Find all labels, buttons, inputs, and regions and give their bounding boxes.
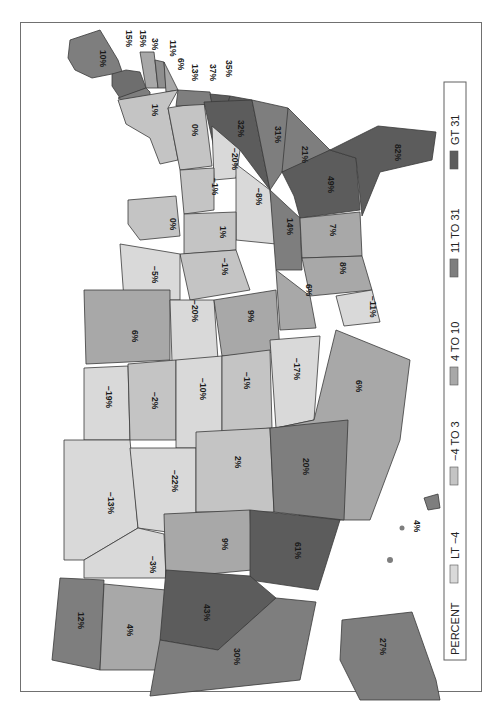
- label-WY: −22%: [170, 470, 180, 492]
- legend-label-5: GT 31: [449, 115, 461, 145]
- legend-label-4: 11 TO 31: [449, 208, 461, 253]
- label-AL: 7%: [328, 224, 338, 237]
- label-FL: 82%: [393, 144, 403, 161]
- label-TN: 14%: [285, 218, 295, 235]
- legend-swatch-4: [450, 259, 458, 277]
- label-TX: 6%: [354, 380, 364, 393]
- label-PA: 0%: [190, 124, 200, 137]
- label-OR: 4%: [125, 624, 135, 637]
- legend-title: PERCENT: [449, 602, 461, 655]
- state-IL[interactable]: [180, 250, 250, 300]
- label-AR: 6%: [304, 284, 314, 297]
- state-KS[interactable]: [222, 350, 272, 432]
- state-UT[interactable]: [164, 510, 252, 578]
- label-SD: −2%: [150, 392, 160, 410]
- state-OK[interactable]: [270, 336, 320, 428]
- legend-label-2: −4 TO 3: [449, 421, 461, 461]
- label-VA: 32%: [236, 120, 246, 137]
- label-WI: −5%: [150, 266, 160, 284]
- label-RI: 11%: [168, 40, 178, 57]
- state-MN[interactable]: [84, 290, 170, 364]
- legend-swatch-2: [450, 467, 458, 485]
- label-ID: −3%: [148, 556, 158, 574]
- label-NC: 31%: [273, 126, 283, 143]
- label-IL: −1%: [220, 258, 230, 276]
- label-NH: 15%: [124, 30, 134, 47]
- label-MD: 35%: [224, 60, 234, 77]
- state-HI[interactable]: [424, 494, 440, 510]
- label-NE: −10%: [198, 378, 208, 400]
- label-GA: 49%: [326, 176, 336, 193]
- label-ME: 10%: [98, 50, 108, 67]
- label-NJ: 13%: [190, 64, 200, 81]
- label-KS: −1%: [242, 372, 252, 390]
- label-NV: 43%: [202, 604, 212, 621]
- state-OH[interactable]: [180, 168, 214, 214]
- state-AK[interactable]: [340, 612, 440, 700]
- label-LA: −11%: [368, 296, 378, 318]
- label-MS: 8%: [338, 262, 348, 275]
- legend-swatch-3: [450, 367, 458, 385]
- state-CO[interactable]: [196, 428, 274, 512]
- label-OK: −17%: [292, 358, 302, 380]
- label-KY: −8%: [254, 188, 264, 206]
- us-choropleth-map: 10% 15% 15% 3% 11% 6% 13% 37% 35% 1% 0% …: [0, 0, 502, 716]
- label-CT: 6%: [176, 58, 186, 71]
- label-UT: 9%: [220, 538, 230, 551]
- legend-label-3: 4 TO 10: [449, 322, 461, 361]
- legend-swatch-1: [450, 565, 458, 583]
- label-AZ: 61%: [293, 542, 303, 559]
- legend-label-1: LT −4: [449, 532, 461, 559]
- label-WA: 12%: [76, 612, 86, 629]
- label-ND: −19%: [104, 386, 114, 408]
- state-NY[interactable]: [118, 90, 178, 164]
- label-CO: 2%: [233, 456, 243, 469]
- label-AK: 27%: [378, 638, 388, 655]
- state-HI-island[interactable]: [387, 557, 393, 563]
- label-MT: −13%: [106, 492, 116, 514]
- label-MO: 9%: [246, 310, 256, 323]
- label-VT: 15%: [138, 30, 148, 47]
- label-IN: 1%: [218, 226, 228, 239]
- label-SC: 21%: [300, 146, 310, 163]
- label-MN: 6%: [130, 330, 140, 343]
- label-NM: 20%: [301, 458, 311, 475]
- label-NY: 1%: [150, 104, 160, 117]
- label-MI: 0%: [168, 218, 178, 231]
- label-OH: −1%: [210, 178, 220, 196]
- state-HI-island[interactable]: [400, 526, 405, 531]
- legend: PERCENT LT −4 −4 TO 3 4 TO 10 11 TO 31 G…: [444, 82, 466, 660]
- state-CT[interactable]: [164, 62, 178, 92]
- label-CA: 30%: [232, 648, 242, 665]
- label-DE: 37%: [208, 64, 218, 81]
- legend-swatch-5: [450, 151, 458, 169]
- label-MA: 3%: [150, 38, 160, 51]
- label-WV: −20%: [230, 148, 240, 170]
- label-IA: −20%: [190, 300, 200, 322]
- label-HI: 4%: [412, 520, 422, 533]
